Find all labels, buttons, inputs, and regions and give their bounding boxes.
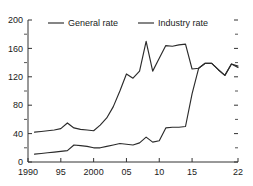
line-chart: General rateIndustry rate 04080120160200… (0, 0, 253, 186)
legend-label-0: General rate (68, 18, 118, 28)
x-axis (28, 20, 238, 162)
x-tick-label: 10 (154, 167, 164, 177)
x-axis-labels: 199095200005101522 (18, 167, 243, 177)
x-tick-label: 15 (187, 167, 197, 177)
series-line-general-rate (35, 41, 238, 132)
y-tick-label: 120 (8, 72, 23, 82)
series-line-industry-rate (35, 63, 238, 154)
y-axis-labels: 04080120160200 (8, 15, 23, 167)
y-tick-label: 0 (18, 157, 23, 167)
legend-label-1: Industry rate (158, 18, 208, 28)
x-tick-label: 22 (233, 167, 243, 177)
y-tick-label: 160 (8, 44, 23, 54)
axis-frame (28, 20, 238, 162)
chart-legend: General rateIndustry rate (48, 18, 208, 28)
x-tick-label: 95 (56, 167, 66, 177)
x-tick-label: 05 (121, 167, 131, 177)
chart-series (35, 41, 238, 154)
x-tick-label: 2000 (84, 167, 104, 177)
y-tick-label: 200 (8, 15, 23, 25)
x-tick-label: 1990 (18, 167, 38, 177)
y-tick-label: 80 (13, 100, 23, 110)
y-axis-ticks-right (234, 20, 238, 162)
chart-container: General rateIndustry rate 04080120160200… (0, 0, 253, 186)
y-tick-label: 40 (13, 129, 23, 139)
